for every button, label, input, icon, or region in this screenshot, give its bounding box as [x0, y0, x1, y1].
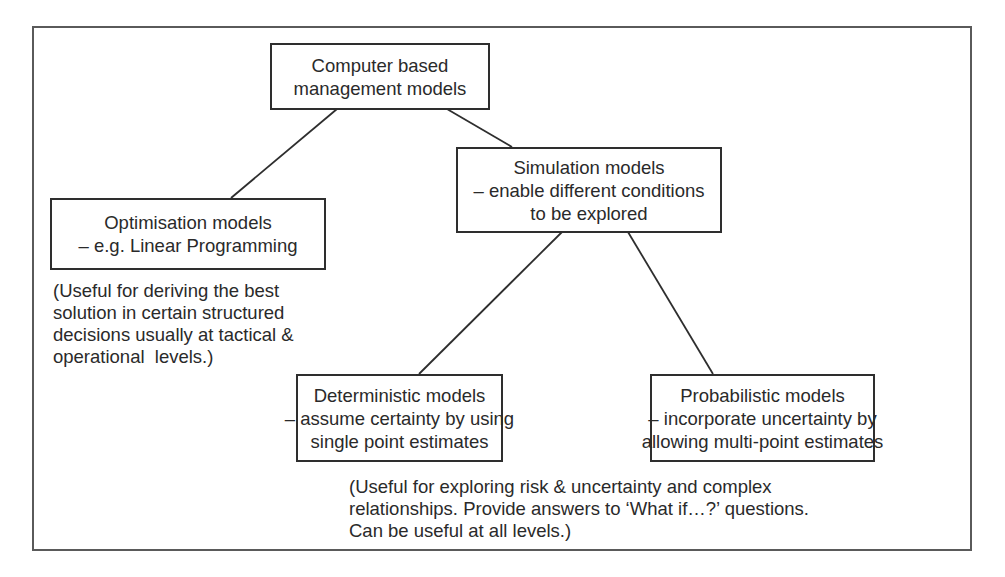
node-title-line-2: management models: [294, 77, 467, 100]
node-description: – incorporate uncertainty by: [648, 407, 876, 430]
node-simulation-models: Simulation models – enable different con…: [456, 147, 722, 233]
node-description-line-2: single point estimates: [311, 430, 489, 453]
node-description: – assume certainty by using: [285, 407, 514, 430]
node-description-line-2: allowing multi-point estimates: [642, 430, 884, 453]
node-title: Simulation models: [513, 156, 664, 179]
node-deterministic-models: Deterministic models – assume certainty …: [296, 374, 503, 462]
node-title: Probabilistic models: [680, 384, 845, 407]
note-line: Can be useful at all levels.): [349, 520, 809, 542]
note-line: (Useful for exploring risk & uncertainty…: [349, 476, 809, 498]
node-optimisation-models: Optimisation models – e.g. Linear Progra…: [50, 198, 326, 270]
node-description: – enable different conditions: [473, 179, 704, 202]
node-title: Computer based: [312, 54, 449, 77]
note-line: operational levels.): [53, 346, 294, 368]
node-probabilistic-models: Probabilistic models – incorporate uncer…: [650, 374, 875, 462]
note-optimisation-usefulness: (Useful for deriving the best solution i…: [53, 280, 294, 368]
note-simulation-usefulness: (Useful for exploring risk & uncertainty…: [349, 476, 809, 542]
node-description: – e.g. Linear Programming: [78, 234, 297, 257]
note-line: relationships. Provide answers to ‘What …: [349, 498, 809, 520]
note-line: solution in certain structured: [53, 302, 294, 324]
node-computer-based-management-models: Computer based management models: [270, 43, 490, 110]
note-line: decisions usually at tactical &: [53, 324, 294, 346]
node-description-line-2: to be explored: [530, 202, 647, 225]
note-line: (Useful for deriving the best: [53, 280, 294, 302]
node-title: Deterministic models: [314, 384, 486, 407]
node-title: Optimisation models: [104, 211, 272, 234]
